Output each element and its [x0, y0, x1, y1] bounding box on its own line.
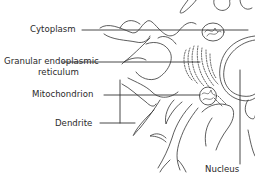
label-rer-line1: Granular endoplasmic	[4, 56, 99, 66]
label-rer-line2: reticulum	[38, 67, 79, 77]
label-cytoplasm: Cytoplasm	[30, 24, 76, 34]
label-dendrite: Dendrite	[55, 118, 92, 128]
label-mitochondrion: Mitochondrion	[32, 89, 93, 99]
cell-outline	[100, 0, 255, 172]
neuron-diagram: Cytoplasm Granular endoplasmic reticulum…	[0, 0, 255, 178]
label-nucleus: Nucleus	[205, 164, 239, 174]
nucleus-shape	[220, 36, 255, 101]
